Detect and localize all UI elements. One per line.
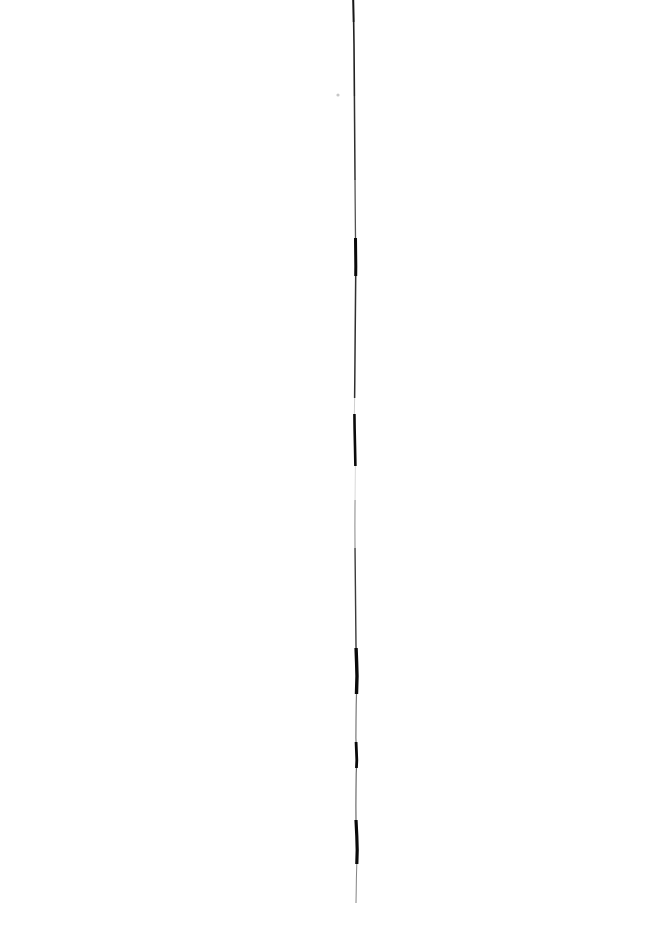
page-canvas: Thin black vertical ink line running dow… xyxy=(0,0,664,928)
page-background xyxy=(0,0,664,928)
ink-stroke-artwork xyxy=(0,0,664,928)
ink-speck xyxy=(336,93,339,96)
